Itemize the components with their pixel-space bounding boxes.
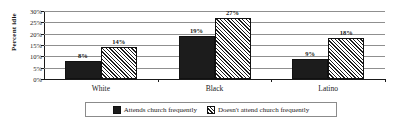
legend-item-doesnt-attend: Doesn't attend church frequently xyxy=(207,106,309,114)
y-axis-tick-label: 10% xyxy=(2,53,42,60)
y-axis-tick-label: 15% xyxy=(2,42,42,49)
y-axis-tick-label: 30% xyxy=(2,8,42,15)
gridline xyxy=(44,11,385,12)
chart-legend: Attends church frequently Doesn't attend… xyxy=(85,102,337,117)
legend-item-attends: Attends church frequently xyxy=(113,106,197,114)
bar-value-label: 18% xyxy=(340,29,353,36)
bar-value-label: 19% xyxy=(190,27,203,34)
bar-value-label: 27% xyxy=(226,9,239,16)
bar xyxy=(328,38,364,79)
bar xyxy=(101,47,137,79)
gridline xyxy=(44,79,385,80)
bar xyxy=(292,59,328,79)
bar xyxy=(179,36,215,79)
bar-value-label: 8% xyxy=(78,52,88,59)
y-axis-tick-label: 25% xyxy=(2,19,42,26)
x-axis-tick-mark xyxy=(385,79,386,82)
legend-label-doesnt-attend: Doesn't attend church frequently xyxy=(218,106,309,114)
y-axis-tick-group: 30%25%20%15%10%5%0% xyxy=(0,0,42,123)
bar xyxy=(215,18,251,79)
legend-swatch-hatch-icon xyxy=(207,106,215,114)
bar-value-label: 9% xyxy=(305,50,315,57)
y-axis-tick-label: 5% xyxy=(2,64,42,71)
x-axis-category-label: Black xyxy=(206,84,224,93)
y-axis-tick-label: 20% xyxy=(2,30,42,37)
x-axis-tick-mark xyxy=(158,79,159,82)
bar-value-label: 14% xyxy=(112,38,125,45)
legend-label-attends: Attends church frequently xyxy=(124,106,197,114)
bar xyxy=(65,61,101,79)
y-axis-tick-label: 0% xyxy=(2,76,42,83)
x-axis-tick-mark xyxy=(271,79,272,82)
legend-swatch-solid-icon xyxy=(113,106,121,114)
x-axis-category-label: White xyxy=(92,84,110,93)
bar-chart: Percent idle 30%25%20%15%10%5%0% WhiteBl… xyxy=(0,0,394,123)
x-axis-category-label: Latino xyxy=(318,84,338,93)
plot-area xyxy=(44,11,385,79)
